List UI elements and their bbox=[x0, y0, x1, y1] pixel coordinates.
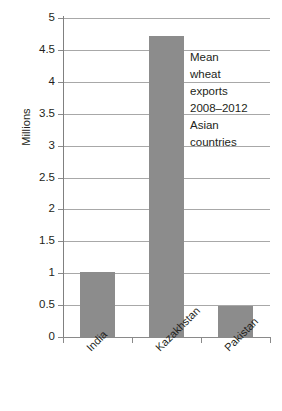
chart-note-line: exports bbox=[190, 83, 276, 100]
chart-note-line: Asian bbox=[190, 117, 276, 134]
chart-note: Meanwheatexports2008–2012Asiancountries bbox=[190, 49, 276, 151]
y-axis-tick-label: 3 bbox=[13, 140, 55, 152]
y-axis-tick-label: 0 bbox=[13, 331, 55, 343]
y-axis-line bbox=[63, 16, 64, 339]
chart-note-line: Mean bbox=[190, 49, 276, 66]
y-axis-tick-label: 4.5 bbox=[13, 44, 55, 56]
x-axis-tick-mark bbox=[63, 337, 64, 343]
y-axis-tick-label-wrap: 2.5 bbox=[0, 172, 55, 184]
bar-chart: Millions 00.511.522.533.544.55 IndiaKaza… bbox=[0, 0, 282, 411]
bar-india[interactable] bbox=[80, 272, 115, 337]
y-axis-tick-label: 0.5 bbox=[13, 299, 55, 311]
y-axis-tick-label-wrap: 3.5 bbox=[0, 108, 55, 120]
y-axis-tick-label-wrap: 2 bbox=[0, 203, 55, 215]
x-axis-tick-mark bbox=[201, 337, 202, 343]
y-axis-tick-label-wrap: 5 bbox=[0, 12, 55, 24]
y-axis-tick-label-wrap: 4 bbox=[0, 76, 55, 88]
y-axis-tick-label-wrap: 0.5 bbox=[0, 299, 55, 311]
y-axis-tick-label-wrap: 3 bbox=[0, 140, 55, 152]
chart-note-line: 2008–2012 bbox=[190, 100, 276, 117]
y-axis-tick-label: 2 bbox=[13, 203, 55, 215]
gridline bbox=[63, 18, 270, 19]
y-axis-tick-label-wrap: 0 bbox=[0, 331, 55, 343]
x-axis-tick-mark bbox=[132, 337, 133, 343]
x-axis-tick-mark bbox=[270, 337, 271, 343]
y-axis-tick-label: 5 bbox=[13, 12, 55, 24]
y-axis-tick-label-wrap: 4.5 bbox=[0, 44, 55, 56]
chart-note-line: wheat bbox=[190, 66, 276, 83]
y-axis-tick-label: 1 bbox=[13, 267, 55, 279]
bar-kazakhstan[interactable] bbox=[149, 36, 184, 337]
chart-note-line: countries bbox=[190, 134, 276, 151]
y-axis-tick-label: 3.5 bbox=[13, 108, 55, 120]
y-axis-tick-label-wrap: 1.5 bbox=[0, 235, 55, 247]
y-axis-tick-label: 2.5 bbox=[13, 172, 55, 184]
y-axis-tick-label: 1.5 bbox=[13, 235, 55, 247]
y-axis-tick-label: 4 bbox=[13, 76, 55, 88]
y-axis-tick-label-wrap: 1 bbox=[0, 267, 55, 279]
y-axis-title: Millions bbox=[17, 87, 35, 167]
